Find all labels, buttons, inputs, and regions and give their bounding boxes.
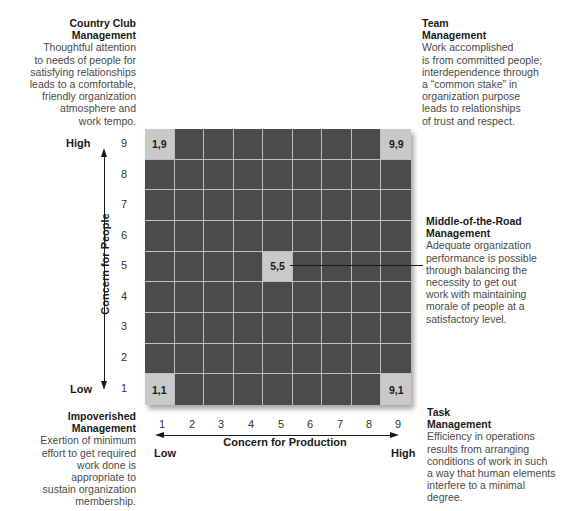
desc-line: Adequate organization: [426, 239, 571, 251]
grid-cell: [234, 313, 264, 344]
grid-cell: [293, 190, 323, 221]
desc-line: Efficiency in operations: [427, 430, 571, 442]
grid-cell: [263, 160, 293, 191]
grid-cell: [234, 252, 264, 283]
grid-cell: [293, 129, 323, 160]
desc-line: conditions of work in such: [427, 455, 571, 467]
grid-cell: [204, 129, 234, 160]
grid-cell: [204, 374, 234, 405]
desc-line: a “common stake” in: [422, 78, 570, 90]
grid-cell: [175, 282, 205, 313]
desc-line: effort to get required: [8, 447, 136, 459]
grid-cell: [322, 374, 352, 405]
grid-cell: [381, 344, 411, 375]
desc-line: Exertion of minimum: [8, 434, 136, 446]
desc-line: a way that human elements: [427, 467, 571, 479]
desc-line: morale of people at a: [426, 300, 571, 312]
grid-cell: [263, 374, 293, 405]
grid-cell: [293, 221, 323, 252]
desc-line: results from arranging: [427, 443, 571, 455]
desc-line: sustain organization: [8, 483, 136, 495]
grid-cell: [145, 190, 175, 221]
team-description: Team Management Work accomplished is fro…: [422, 17, 570, 127]
desc-line: interfere to a minimal: [427, 479, 571, 491]
grid-cell: [204, 221, 234, 252]
grid-cell: [234, 221, 264, 252]
grid-cell: [263, 190, 293, 221]
desc-line: necessity to get out: [426, 276, 571, 288]
middle-of-the-road-description: Middle-of-the-Road Management Adequate o…: [426, 215, 571, 325]
grid-cell-9-9: 9,9: [381, 129, 411, 160]
country-club-title-2: Management: [8, 29, 136, 41]
grid-cell: [352, 282, 382, 313]
grid-cell: [352, 344, 382, 375]
grid-cell: [352, 252, 382, 283]
grid-cell: [352, 190, 382, 221]
grid-cell: [145, 221, 175, 252]
grid-cell: [322, 313, 352, 344]
grid-cell: [293, 374, 323, 405]
desc-line: atmosphere and: [8, 102, 136, 114]
grid-cell: [145, 344, 175, 375]
grid-cell: [175, 344, 205, 375]
grid-cell: [352, 313, 382, 344]
desc-line: work done is: [8, 459, 136, 471]
desc-line: interdependence through: [422, 66, 570, 78]
grid-cell: [381, 313, 411, 344]
grid-cell: [234, 190, 264, 221]
x-tick: 1: [155, 418, 169, 430]
y-tick: 5: [118, 259, 130, 271]
grid-cell: [263, 313, 293, 344]
impoverished-title-2: Management: [8, 422, 136, 434]
grid-cell: [352, 374, 382, 405]
x-axis-high-label: High: [391, 447, 415, 459]
y-tick: 9: [118, 137, 130, 149]
desc-line: work tempo.: [8, 115, 136, 127]
x-tick: 7: [333, 418, 347, 430]
grid-cell: [175, 129, 205, 160]
country-club-description: Country Club Management Thoughtful atten…: [8, 17, 136, 127]
desc-line: of trust and respect.: [422, 115, 570, 127]
grid-cell: [145, 282, 175, 313]
y-tick: 2: [118, 351, 130, 363]
grid-cell: [352, 160, 382, 191]
desc-line: Thoughtful attention: [8, 41, 136, 53]
x-tick: 9: [391, 418, 405, 430]
y-tick: 4: [118, 290, 130, 302]
grid-cell: [293, 344, 323, 375]
desc-line: leads to a comfortable,: [8, 78, 136, 90]
grid-cell: [234, 129, 264, 160]
grid-cell: [322, 221, 352, 252]
grid-cell: [263, 221, 293, 252]
x-tick: 2: [185, 418, 199, 430]
y-axis-low-label: Low: [70, 383, 92, 395]
x-tick: 4: [244, 418, 258, 430]
impoverished-title-1: Impoverished: [8, 410, 136, 422]
desc-line: degree.: [427, 491, 571, 503]
managerial-grid: 1,9 9,9 5,5 1,1 9,1: [145, 129, 411, 405]
desc-line: work with maintaining: [426, 288, 571, 300]
grid-cell: [381, 221, 411, 252]
grid-cell: [234, 282, 264, 313]
grid-cell: [293, 313, 323, 344]
x-tick: 8: [362, 418, 376, 430]
middle-title-2: Management: [426, 227, 571, 239]
desc-line: performance is possible: [426, 252, 571, 264]
y-tick: 6: [118, 229, 130, 241]
grid-cell: [175, 190, 205, 221]
task-title-1: Task: [427, 406, 571, 418]
y-tick: 1: [118, 382, 130, 394]
grid-cell: [175, 160, 205, 191]
grid-cell: [381, 282, 411, 313]
grid-cell: [263, 344, 293, 375]
grid-cell: [322, 252, 352, 283]
grid-cell: [263, 129, 293, 160]
grid-cell: [204, 160, 234, 191]
desc-line: through balancing the: [426, 264, 571, 276]
grid-cell: [381, 160, 411, 191]
task-description: Task Management Efficiency in operations…: [427, 406, 571, 504]
grid-cell: [234, 344, 264, 375]
grid-cell-1-9: 1,9: [145, 129, 175, 160]
desc-line: to needs of people for: [8, 54, 136, 66]
grid-cell: [204, 313, 234, 344]
